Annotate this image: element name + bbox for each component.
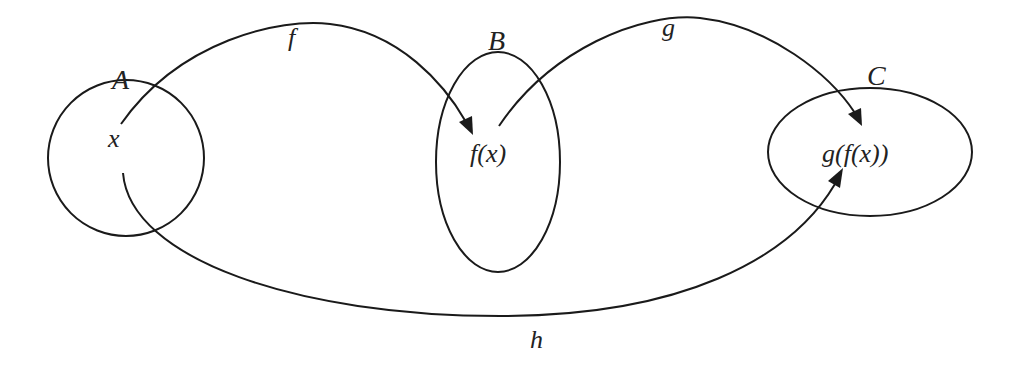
set-c: C g(f(x)) (768, 60, 972, 216)
set-a-label: A (110, 64, 130, 95)
arrow-g-label: g (662, 13, 675, 42)
element-gfx-label: g(f(x)) (822, 139, 888, 168)
set-b-label: B (488, 25, 505, 56)
element-x-label: x (107, 124, 120, 153)
arrow-h-curve (123, 173, 835, 316)
arrow-h-label: h (530, 325, 543, 354)
arrow-f-label: f (288, 23, 299, 52)
arrow-h-head-icon (828, 168, 843, 188)
element-fx-label: f(x) (470, 139, 506, 168)
set-b: B f(x) (436, 25, 560, 272)
arrow-g-head-icon (848, 108, 862, 126)
arrow-f: f (121, 23, 473, 135)
arrow-h: h (123, 168, 843, 354)
arrow-f-head-icon (459, 116, 473, 135)
set-c-label: C (867, 60, 886, 91)
set-a-circle (48, 80, 204, 236)
set-a: A x (48, 64, 204, 236)
composition-diagram: A x B f(x) C g(f(x)) f g h (0, 0, 1013, 365)
